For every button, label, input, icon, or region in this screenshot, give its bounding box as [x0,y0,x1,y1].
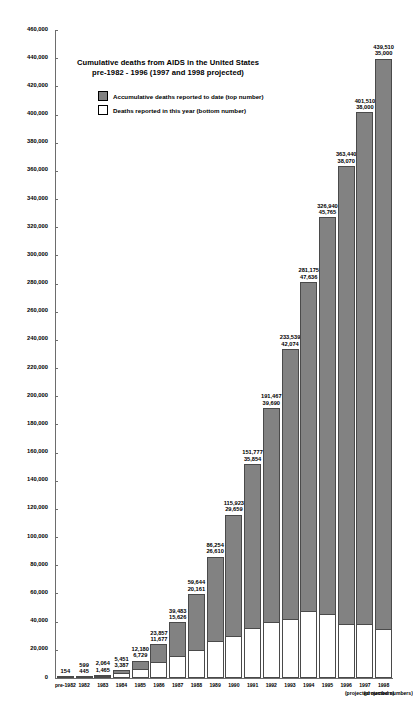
bar-column: 12,1806,729 [132,661,149,678]
bar-column: 439,51035,000 [375,59,392,678]
y-axis-tick-label: 340,000 [27,195,48,201]
bar-stack [319,217,336,678]
bar-stack [132,661,149,678]
bar-stack [150,644,167,678]
bar-stack [76,677,93,678]
y-axis-tick-label: 440,000 [27,54,48,60]
y-axis-tick-label: 380,000 [27,138,48,144]
y-axis-tick-label: 220,000 [27,364,48,370]
y-axis-tick-label: 460,000 [27,26,48,32]
bar-column: 326,94045,765 [319,217,336,678]
y-axis-tick-label: 120,000 [27,504,48,510]
bar-segment-annual [375,629,392,678]
bar-segment-annual [338,624,355,678]
x-axis-label: 1998(projected numbers) [364,682,404,696]
bar-value-labels: 326,94045,765 [317,203,338,216]
bar-value-labels: 2,0641,465 [96,660,110,673]
bar-value-labels: 439,51035,000 [373,44,394,57]
bar-segment-annual [356,624,373,678]
bar-column: 363,44038,070 [338,166,355,678]
bar-segment-annual [282,619,299,678]
y-axis-tick-label: 100,000 [27,533,48,539]
bar-stack [282,349,299,678]
bar-column: 154 [57,677,74,678]
bar-value-labels: 59,64420,161 [188,579,205,592]
y-axis-tick-label: 140,000 [27,476,48,482]
bar-segment-annual [113,673,130,678]
bar-value-labels: 281,17547,636 [298,267,319,280]
bar-value-labels: 191,46739,690 [261,393,282,406]
bar-value-labels: 5,4513,387 [114,656,128,669]
bar-segment-cumulative [319,217,336,678]
bar-value-labels: 23,85711,677 [150,630,167,643]
bar-stack [169,622,186,678]
bar-column: 151,77735,854 [244,464,261,678]
x-axis-label-note: (projected numbers) [364,690,404,696]
y-axis-tick-label: 200,000 [27,392,48,398]
bar-value-labels: 39,48315,626 [169,608,186,621]
y-axis-tick-label: 180,000 [27,420,48,426]
bar-label-annual: 11,677 [150,636,167,642]
bar-column: 599445 [76,677,93,678]
y-axis-tick-label: 400,000 [27,110,48,116]
bar-column: 281,17547,636 [300,282,317,678]
y-axis-tick-mark [55,678,58,679]
bar-stack [207,557,224,679]
bar-segment-annual [94,676,111,678]
bar-segment-annual [188,650,205,678]
bar-segment-cumulative [375,59,392,678]
x-axis-line [55,678,393,679]
bar-value-labels: 233,53942,074 [280,334,301,347]
bar-column: 39,48315,626 [169,622,186,678]
bar-segment-cumulative [57,676,74,678]
bar-stack [338,166,355,678]
bar-stack [113,670,130,678]
bar-value-labels: 599445 [79,662,89,675]
bar-stack [356,112,373,678]
y-axis-tick-label: 240,000 [27,335,48,341]
bar-stack [94,675,111,678]
bar-value-labels: 115,92329,659 [224,500,244,513]
bar-label-annual: 29,659 [224,506,244,512]
y-axis-tick-label: 280,000 [27,279,48,285]
bar-column: 23,85711,677 [150,644,167,678]
bar-segment-annual [150,662,167,678]
y-axis-tick-label: 160,000 [27,448,48,454]
bar-column: 115,92329,659 [225,515,242,678]
bar-column: 59,64420,161 [188,594,205,678]
bar-label-annual: 6,729 [132,652,149,658]
bar-segment-cumulative [338,166,355,678]
bar-column: 2,0641,465 [94,675,111,678]
bar-label-annual: 35,000 [373,50,394,56]
bar-stack [244,464,261,678]
bar-value-labels: 12,1806,729 [132,646,149,659]
bar-segment-cumulative [356,112,373,678]
bar-value-labels: 401,51038,000 [355,98,376,111]
y-axis-tick-label: 260,000 [27,307,48,313]
bar-label-annual: 445 [79,668,89,674]
bar-label-cumulative: 154 [61,668,71,674]
bar-label-annual: 38,070 [336,158,357,164]
bar-column: 5,4513,387 [113,670,130,678]
bar-value-labels: 151,77735,854 [242,449,263,462]
bar-label-annual: 38,000 [355,104,376,110]
bar-segment-annual [319,614,336,678]
plot-area: 1545994452,0641,4655,4513,38712,1806,729… [56,30,393,678]
bar-segment-annual [244,628,261,679]
y-axis-tick-label: 80,000 [30,561,48,567]
bar-label-annual: 26,610 [206,548,223,554]
y-axis-tick-label: 360,000 [27,166,48,172]
bar-label-annual: 1,465 [96,667,110,673]
bar-segment-annual [169,656,186,678]
bar-label-annual: 3,387 [114,662,128,668]
bar-stack [57,677,74,678]
bar-value-labels: 363,44038,070 [336,151,357,164]
bar-label-annual: 45,765 [317,209,338,215]
y-axis-tick-label: 300,000 [27,251,48,257]
bar-column: 401,51038,000 [356,112,373,678]
bar-column: 233,53942,074 [282,349,299,678]
bar-label-annual: 47,636 [298,274,319,280]
bar-label-annual: 20,161 [188,586,205,592]
bar-segment-annual [263,622,280,678]
